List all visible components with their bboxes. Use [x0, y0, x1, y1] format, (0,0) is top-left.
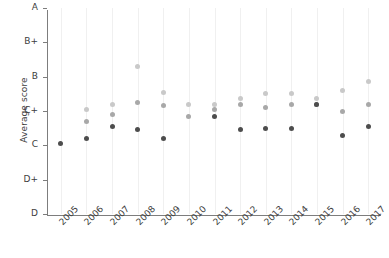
data-point [110, 102, 115, 107]
data-point [289, 126, 294, 131]
gridline [163, 8, 164, 214]
data-point [58, 141, 63, 146]
y-tick-label: D+ [8, 174, 38, 184]
data-point [238, 96, 243, 101]
gridline [368, 8, 369, 214]
gridline [189, 8, 190, 214]
y-tick-label: B+ [8, 36, 38, 46]
y-tick-mark [43, 180, 47, 181]
y-tick-label: A [8, 2, 38, 12]
data-point [366, 79, 371, 84]
y-tick-label: B [8, 71, 38, 81]
data-point [314, 96, 319, 101]
data-point [161, 136, 166, 141]
gridline [317, 8, 318, 214]
data-point [340, 88, 345, 93]
data-point [263, 91, 268, 96]
gridline [240, 8, 241, 214]
data-point [135, 100, 140, 105]
data-point [135, 127, 140, 132]
data-point [366, 124, 371, 129]
y-tick-mark [43, 145, 47, 146]
data-point [186, 102, 191, 107]
data-point [110, 124, 115, 129]
data-point [161, 103, 166, 108]
data-point [135, 64, 140, 69]
y-tick-label: C [8, 139, 38, 149]
gridline [61, 8, 62, 214]
gridline [138, 8, 139, 214]
gridline [266, 8, 267, 214]
data-point [263, 126, 268, 131]
data-point [110, 112, 115, 117]
y-tick-label: D [8, 208, 38, 218]
data-point [289, 102, 294, 107]
plot-area [48, 8, 381, 214]
y-tick-label: C+ [8, 105, 38, 115]
data-point [366, 102, 371, 107]
data-point [212, 102, 217, 107]
y-tick-mark [43, 214, 47, 215]
gridline [291, 8, 292, 214]
data-point [238, 127, 243, 132]
y-tick-mark [43, 111, 47, 112]
y-tick-mark [43, 77, 47, 78]
data-point [340, 109, 345, 114]
data-point [314, 102, 319, 107]
data-point [340, 133, 345, 138]
data-point [212, 114, 217, 119]
data-point [212, 107, 217, 112]
y-tick-mark [43, 8, 47, 9]
data-point [186, 114, 191, 119]
data-point [84, 107, 89, 112]
data-point [238, 102, 243, 107]
data-point [84, 136, 89, 141]
scatter-chart: Average score AB+BC+CD+D 200520062007200… [0, 0, 389, 258]
data-point [161, 90, 166, 95]
data-point [263, 105, 268, 110]
data-point [84, 119, 89, 124]
y-tick-mark [43, 42, 47, 43]
data-point [289, 91, 294, 96]
